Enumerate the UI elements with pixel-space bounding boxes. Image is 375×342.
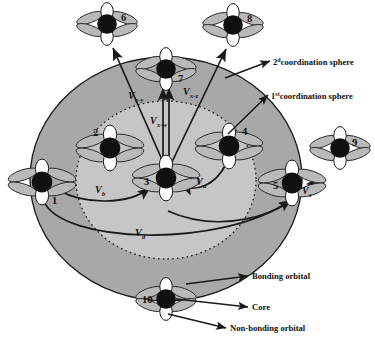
first-sphere-label: 1stcoordination sphere: [271, 91, 353, 101]
node-label-9: 9: [352, 137, 357, 148]
node-6[interactable]: [75, 3, 139, 46]
node-label-4: 4: [242, 126, 248, 137]
node-label-1: 1: [52, 195, 57, 206]
node-label-3: 3: [144, 176, 149, 187]
node-label-2: 2: [93, 127, 98, 138]
legend-bonding-orbital: Bonding orbital: [252, 271, 311, 281]
legend-core: Core: [252, 302, 270, 312]
node-8[interactable]: [201, 4, 265, 47]
figure-canvas: 1 2 3 4 5 6 7 8 9 10 V b V a V c V d V x…: [0, 0, 375, 342]
leader-nonbonding-orbital: [168, 314, 226, 328]
node-label-10: 10: [142, 294, 153, 305]
svg-text:x-z: x-z: [189, 92, 198, 99]
node-label-6: 6: [121, 12, 126, 23]
node-9[interactable]: [308, 127, 372, 170]
svg-text:x-y: x-y: [134, 96, 143, 103]
node-label-5: 5: [273, 180, 278, 191]
leader-second-sphere: [225, 61, 270, 78]
second-sphere-label: 2dcoordination sphere: [273, 57, 354, 67]
coordination-sphere-diagram: 1 2 3 4 5 6 7 8 9 10 V b V a V c V d V x…: [0, 0, 375, 342]
node-label-8: 8: [247, 13, 252, 24]
node-label-7: 7: [178, 73, 183, 84]
svg-text:x-w: x-w: [156, 121, 167, 128]
svg-text:c: c: [309, 191, 312, 198]
legend-nonbonding-orbital: Non-bonding orbital: [230, 323, 306, 333]
